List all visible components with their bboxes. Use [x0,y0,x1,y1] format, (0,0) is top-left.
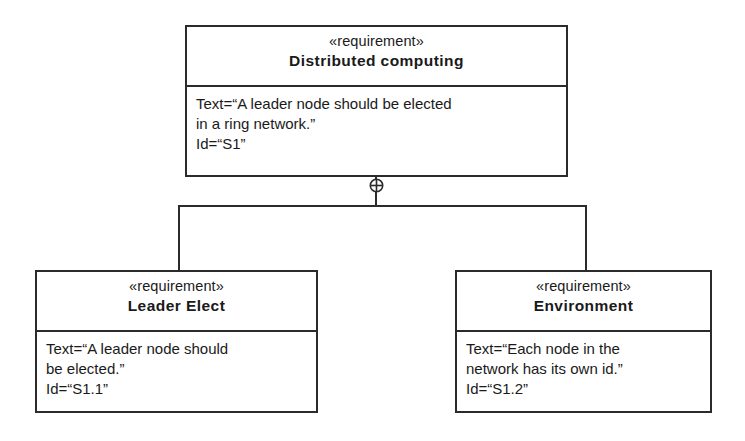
connector-drop-left [178,205,180,271]
stereotype-label: «requirement» [463,278,704,295]
containment-crosshair-icon [369,178,384,193]
stereotype-label: «requirement» [193,33,560,50]
connector-horizontal-bus [178,205,587,207]
connector-drop-right [585,205,587,271]
requirement-properties: Text=“A leader node should be elected in… [187,87,566,159]
requirement-header: «requirement» Leader Elect [37,272,316,332]
requirement-title: Environment [463,297,704,316]
requirement-block-leader-elect[interactable]: «requirement» Leader Elect Text=“A leade… [35,270,318,413]
requirement-properties: Text=“Each node in the network has its o… [457,332,710,404]
stereotype-label: «requirement» [43,278,310,295]
requirement-title: Distributed computing [193,52,560,71]
requirement-title: Leader Elect [43,297,310,316]
requirement-diagram-canvas: «requirement» Distributed computing Text… [0,0,745,441]
requirement-header: «requirement» Environment [457,272,710,332]
requirement-block-environment[interactable]: «requirement» Environment Text=“Each nod… [455,270,712,413]
requirement-header: «requirement» Distributed computing [187,27,566,87]
requirement-block-distributed-computing[interactable]: «requirement» Distributed computing Text… [185,25,568,177]
requirement-properties: Text=“A leader node should be elected.” … [37,332,316,404]
